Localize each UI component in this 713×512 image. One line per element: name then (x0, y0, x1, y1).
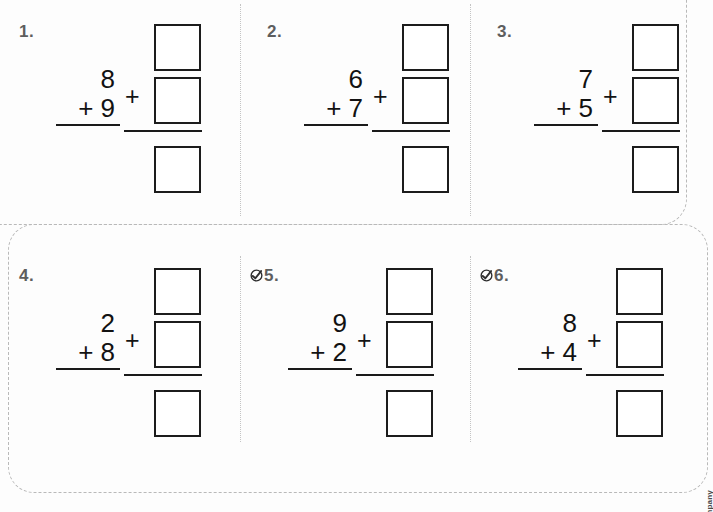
problem-1-sum-rule (56, 124, 120, 126)
problem-6-plus-sign: + (587, 328, 602, 353)
problem-4-label: 4. (18, 266, 34, 286)
problem-5-box-rule (356, 374, 434, 376)
problem-4: 4. 2 + 8 + (4, 252, 236, 462)
problem-4-vertical-sum: 2 + 8 (56, 310, 120, 370)
problem-4-box-sum: + (122, 264, 228, 444)
problem-6-answer-box-2[interactable] (616, 321, 663, 368)
problem-1-box-rule (124, 130, 202, 132)
problem-5: 5. 9 + 2 + (236, 252, 468, 462)
problem-3-vertical-sum: 7 + 5 (534, 66, 598, 126)
problem-3-plus-sign: + (603, 84, 618, 109)
problem-4-plus-sign: + (125, 328, 140, 353)
problem-2-answer-box-1[interactable] (402, 24, 449, 71)
problem-5-label: 5. (250, 266, 279, 287)
problem-2-answer-box-3[interactable] (402, 146, 449, 193)
problem-1-answer-box-1[interactable] (154, 24, 201, 71)
problem-3-addend-top: 7 (534, 66, 598, 93)
problem-2-plus-sign: + (373, 84, 388, 109)
problem-5-answer-box-3[interactable] (386, 390, 433, 437)
problem-5-box-sum: + (354, 264, 460, 444)
problem-2-box-rule (372, 130, 450, 132)
problem-1-plus-sign: + (125, 84, 140, 109)
problem-3-box-rule (602, 130, 680, 132)
copyright-notice: © Houghton Mifflin Harcourt Publishing C… (705, 490, 713, 512)
problem-5-sum-rule (288, 368, 352, 370)
problem-2: 2. 6 + 7 + (252, 8, 484, 218)
problem-4-box-rule (124, 374, 202, 376)
check-circle-icon (250, 267, 263, 287)
problem-3: 3. 7 + 5 + (482, 8, 713, 218)
problem-4-number: 4. (19, 266, 34, 285)
problem-5-plus-sign: + (357, 328, 372, 353)
problem-6-box-sum: + (584, 264, 690, 444)
problem-2-addend-top: 6 (304, 66, 368, 93)
problem-2-addend-bottom: + 7 (304, 93, 368, 123)
problem-5-answer-box-2[interactable] (386, 321, 433, 368)
problem-1-label: 1. (18, 22, 34, 42)
problem-6: 6. 8 + 4 + (466, 252, 698, 462)
problem-5-answer-box-1[interactable] (386, 268, 433, 315)
problem-2-sum-rule (304, 124, 368, 126)
problem-4-answer-box-2[interactable] (154, 321, 201, 368)
problem-2-box-sum: + (370, 20, 476, 200)
problem-3-sum-rule (534, 124, 598, 126)
problem-1: 1. 8 + 9 + (4, 8, 236, 218)
problem-2-label: 2. (266, 22, 282, 42)
problem-6-addend-bottom: + 4 (518, 337, 582, 367)
problem-1-vertical-sum: 8 + 9 (56, 66, 120, 126)
problem-6-box-rule (586, 374, 664, 376)
worksheet-page: 1. 8 + 9 + 2. 6 + 7 + (0, 0, 713, 512)
problem-4-answer-box-1[interactable] (154, 268, 201, 315)
problem-6-number: 6. (494, 266, 509, 285)
problem-3-box-sum: + (600, 20, 706, 200)
problem-6-vertical-sum: 8 + 4 (518, 310, 582, 370)
problem-5-addend-bottom: + 2 (288, 337, 352, 367)
problem-1-box-sum: + (122, 20, 228, 200)
problem-3-answer-box-2[interactable] (632, 77, 679, 124)
problem-6-addend-top: 8 (518, 310, 582, 337)
problem-1-number: 1. (19, 22, 34, 41)
problem-4-answer-box-3[interactable] (154, 390, 201, 437)
problem-3-answer-box-3[interactable] (632, 146, 679, 193)
problem-6-label: 6. (480, 266, 509, 287)
problem-5-vertical-sum: 9 + 2 (288, 310, 352, 370)
check-circle-icon (480, 267, 493, 287)
problem-1-addend-bottom: + 9 (56, 93, 120, 123)
problem-5-number: 5. (264, 266, 279, 285)
problem-3-addend-bottom: + 5 (534, 93, 598, 123)
problem-3-label: 3. (496, 22, 512, 42)
problem-3-answer-box-1[interactable] (632, 24, 679, 71)
problem-2-number: 2. (267, 22, 282, 41)
problem-6-answer-box-3[interactable] (616, 390, 663, 437)
problem-5-addend-top: 9 (288, 310, 352, 337)
problem-1-answer-box-2[interactable] (154, 77, 201, 124)
problem-4-sum-rule (56, 368, 120, 370)
problem-3-number: 3. (497, 22, 512, 41)
problem-6-answer-box-1[interactable] (616, 268, 663, 315)
problem-4-addend-top: 2 (56, 310, 120, 337)
problem-1-answer-box-3[interactable] (154, 146, 201, 193)
problem-6-sum-rule (518, 368, 582, 370)
problem-2-answer-box-2[interactable] (402, 77, 449, 124)
problem-1-addend-top: 8 (56, 66, 120, 93)
problem-4-addend-bottom: + 8 (56, 337, 120, 367)
column-separator-1 (240, 4, 241, 216)
problem-2-vertical-sum: 6 + 7 (304, 66, 368, 126)
